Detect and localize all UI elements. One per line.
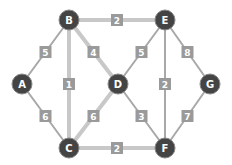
weight-value: 6: [42, 112, 48, 122]
edge-weight-label: 4: [88, 46, 100, 58]
edge-weight-label: 5: [136, 46, 148, 58]
weight-value: 8: [184, 48, 190, 58]
edge-weight-label: 2: [111, 14, 123, 26]
node-c: C: [59, 138, 79, 158]
edge-weight-label: 8: [182, 46, 194, 58]
nodes-layer: ABCDEFG: [12, 10, 220, 158]
edge-weight-label: 6: [88, 110, 100, 122]
node-f: F: [155, 138, 175, 158]
edge-weight-label: 5: [40, 46, 52, 58]
node-d: D: [108, 74, 128, 94]
weight-value: 3: [138, 112, 144, 122]
edge-weight-label: 2: [159, 78, 171, 90]
weight-value: 1: [66, 80, 72, 90]
weight-value: 2: [114, 144, 120, 154]
node-a: A: [12, 74, 32, 94]
node-label: F: [162, 143, 169, 154]
node-e: E: [155, 10, 175, 30]
weight-value: 5: [42, 48, 48, 58]
weight-value: 2: [114, 16, 120, 26]
node-label: D: [114, 79, 122, 90]
node-b: B: [59, 10, 79, 30]
weight-value: 6: [90, 112, 96, 122]
weight-value: 5: [138, 48, 144, 58]
edge-weight-label: 7: [182, 110, 194, 122]
edge-weight-label: 2: [111, 142, 123, 154]
edge-weight-label: 1: [63, 78, 75, 90]
node-label: B: [65, 15, 73, 26]
edge-weight-label: 3: [136, 110, 148, 122]
node-g: G: [200, 74, 220, 94]
weight-value: 7: [184, 112, 190, 122]
node-label: C: [65, 143, 72, 154]
weight-value: 2: [162, 80, 168, 90]
node-label: G: [206, 79, 214, 90]
node-label: A: [18, 79, 26, 90]
weight-value: 4: [90, 48, 96, 58]
weighted-graph: 561426253287 ABCDEFG: [0, 0, 232, 165]
node-label: E: [162, 15, 169, 26]
edge-weight-label: 6: [40, 110, 52, 122]
